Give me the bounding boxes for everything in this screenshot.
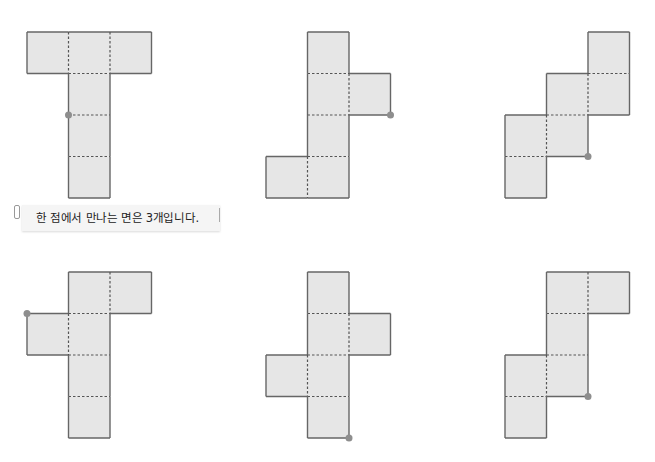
vertex-dot [65, 112, 72, 119]
cube-face [547, 355, 589, 397]
net-3 [505, 32, 630, 198]
cube-face [308, 272, 350, 314]
cube-face [308, 74, 350, 116]
cube-face [110, 272, 152, 314]
cube-face [547, 272, 589, 314]
cube-face [69, 157, 111, 199]
net-2 [266, 32, 394, 198]
cube-face [308, 355, 350, 397]
cube-face [505, 157, 547, 199]
cube-face [547, 314, 589, 356]
cube-face [69, 397, 111, 439]
vertex-dot [346, 435, 353, 442]
cube-face [308, 32, 350, 74]
cube-face [308, 115, 350, 157]
cube-face [505, 397, 547, 439]
net-5 [266, 272, 391, 442]
cube-face [349, 74, 391, 116]
cube-face [308, 157, 350, 199]
cube-face [69, 115, 111, 157]
cube-face [69, 272, 111, 314]
hint-text: 한 점에서 만나는 면은 3개입니다. [36, 211, 199, 225]
cube-face [505, 115, 547, 157]
cube-face [69, 355, 111, 397]
cube-face [547, 74, 589, 116]
vertex-dot [585, 153, 592, 160]
paperclip-left-icon [14, 205, 20, 219]
net-6 [505, 272, 630, 438]
vertex-dot [387, 112, 394, 119]
net-1 [27, 32, 152, 198]
cube-face [69, 32, 111, 74]
cube-nets-diagram [0, 0, 655, 462]
cube-face [588, 32, 630, 74]
cube-face [266, 157, 308, 199]
cube-face [588, 272, 630, 314]
cube-face [505, 355, 547, 397]
cube-face [588, 74, 630, 116]
cube-face [349, 314, 391, 356]
cube-face [27, 32, 69, 74]
cube-face [110, 32, 152, 74]
net-4 [24, 272, 152, 438]
cube-face [308, 314, 350, 356]
vertex-dot [585, 393, 592, 400]
cube-face [27, 314, 69, 356]
cube-face [69, 74, 111, 116]
cube-face [547, 115, 589, 157]
paperclip-right-icon [219, 208, 220, 222]
cube-face [69, 314, 111, 356]
cube-face [308, 397, 350, 439]
vertex-dot [24, 310, 31, 317]
hint-callout: 한 점에서 만나는 면은 3개입니다. [22, 205, 220, 231]
cube-face [266, 355, 308, 397]
